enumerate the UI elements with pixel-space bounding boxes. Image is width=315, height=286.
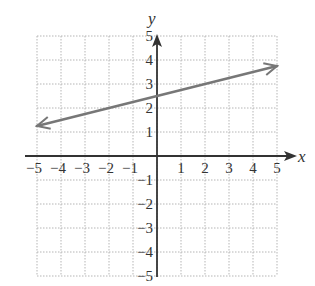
y-tick-label: −5 [137, 268, 153, 284]
x-tick-label: −2 [98, 160, 114, 176]
coordinate-graph: x y −5−4−3−2−11234554321−1−2−3−4−5 [0, 0, 315, 286]
x-tick-label: 4 [249, 160, 257, 176]
y-tick-label: 2 [146, 100, 154, 116]
x-tick-label: 1 [177, 160, 185, 176]
x-tick-label: −3 [74, 160, 90, 176]
y-tick-label: −4 [137, 244, 153, 260]
y-axis-label: y [146, 9, 156, 28]
x-tick-label: −4 [50, 160, 66, 176]
y-tick-label: 3 [146, 76, 154, 92]
x-tick-label: 3 [225, 160, 233, 176]
y-tick-label: −3 [137, 220, 153, 236]
x-tick-label: −1 [122, 160, 138, 176]
x-tick-label: 5 [273, 160, 281, 176]
x-tick-label: 2 [201, 160, 209, 176]
y-tick-label: −1 [137, 172, 153, 188]
x-axis-label: x [297, 147, 306, 166]
y-tick-label: 1 [146, 124, 154, 140]
y-tick-label: 5 [146, 28, 154, 44]
y-tick-label: −2 [137, 196, 153, 212]
axes: x y [25, 9, 306, 277]
x-tick-label: −5 [26, 160, 42, 176]
y-tick-label: 4 [146, 52, 154, 68]
